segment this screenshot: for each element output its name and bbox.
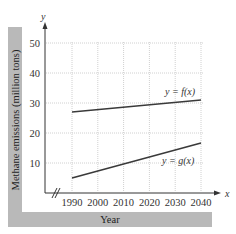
x-tick-label: 2030	[165, 197, 186, 208]
y-axis-name: y	[40, 11, 46, 22]
y-tick-label: 20	[30, 128, 41, 139]
y-tick-label: 40	[30, 68, 41, 79]
y-tick-label: 50	[30, 38, 41, 49]
x-tick-label: 2040	[191, 197, 212, 208]
x-tick-label: 2010	[113, 197, 134, 208]
y-tick-labels: 1020304050	[30, 38, 41, 169]
data-series	[72, 100, 201, 178]
x-axis-name: x	[224, 188, 230, 199]
grid-lines	[46, 42, 204, 192]
x-axis-arrow-icon	[214, 191, 221, 196]
y-tick-label: 30	[30, 98, 41, 109]
x-tick-labels: 199020002010202020302040	[62, 197, 212, 208]
x-tick-label: 2020	[139, 197, 160, 208]
f-line	[72, 100, 201, 112]
x-tick-label: 2000	[87, 197, 108, 208]
g-line-label: y = g(x)	[161, 155, 195, 167]
y-axis-arrow-icon	[43, 22, 48, 29]
x-tick-label: 1990	[62, 197, 83, 208]
f-line-label: y = f(x)	[164, 86, 196, 98]
chart-plot: y x 1020304050 199020002010202020302040 …	[0, 0, 236, 234]
y-tick-label: 10	[30, 158, 41, 169]
